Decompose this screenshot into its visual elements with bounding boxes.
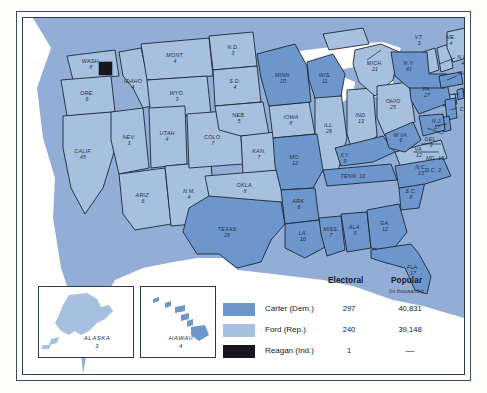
legend-row-carter: Carter (Dem.) 297 40,831: [223, 300, 455, 321]
hawaii-inset-label: HAWAII4: [169, 335, 193, 349]
legend-swatch-reagan: [223, 345, 255, 358]
legend-electoral-ford: 240: [328, 325, 370, 334]
legend-header-popular-note: (in thousands): [389, 288, 424, 294]
map-inner-frame: WASH.8 ORE.6 CALIF.45 NEV.3 IDAHO4 MONT.…: [22, 17, 465, 375]
legend-header-row: Electoral Popular (in thousands): [223, 276, 455, 300]
legend-popular-reagan: —: [383, 346, 437, 356]
legend-popular-ford: 39,148: [383, 325, 437, 334]
electoral-map-page: WASH.8 ORE.6 CALIF.45 NEV.3 IDAHO4 MONT.…: [0, 0, 487, 393]
legend-row-ford: Ford (Rep.) 240 39,148: [223, 321, 455, 342]
legend-electoral-carter: 297: [328, 304, 370, 313]
legend-candidate-carter: Carter (Dem.): [265, 304, 314, 313]
legend-popular-carter: 40,831: [383, 304, 437, 313]
alaska-inset: ALASKA3: [38, 286, 134, 358]
alaska-inset-label: ALASKA3: [84, 335, 110, 349]
legend-header-electoral: Electoral: [328, 276, 364, 285]
legend-electoral-reagan: 1: [328, 346, 370, 355]
legend-candidate-reagan: Reagan (Ind.): [265, 346, 314, 355]
legend-row-reagan: Reagan (Ind.) 1 —: [223, 342, 455, 363]
legend-swatch-ford: [223, 324, 255, 337]
map-legend: Electoral Popular (in thousands) Carter …: [223, 276, 455, 368]
reagan-elector-marker: [99, 62, 112, 75]
legend-candidate-ford: Ford (Rep.): [265, 325, 306, 334]
hawaii-inset: HAWAII4: [140, 286, 216, 358]
legend-swatch-carter: [223, 303, 255, 316]
legend-header-popular: Popular: [391, 276, 422, 285]
